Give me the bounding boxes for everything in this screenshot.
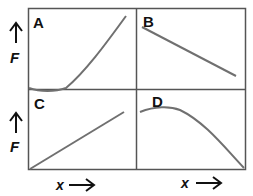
panel-label-b: B [143,13,154,30]
x-axis-label-right: x [180,175,190,191]
curve-c [30,112,124,169]
panel-label-a: A [33,14,44,31]
y-axis-arrow-icon-bottom [10,113,22,133]
panel-label-d: D [152,93,163,110]
y-axis-arrow-icon-top [10,23,22,43]
panel-label-c: C [34,95,45,112]
x-axis-arrow-icon-right [196,177,221,189]
x-axis-arrow-icon-left [69,179,94,191]
x-axis-label-left: x [55,177,65,193]
y-axis-label-top: F [10,49,20,66]
y-axis-label-bottom: F [10,138,20,155]
curve-d [140,107,244,168]
force-graphs-diagram: A B C D F F x x [0,0,253,196]
curve-b [142,27,236,76]
